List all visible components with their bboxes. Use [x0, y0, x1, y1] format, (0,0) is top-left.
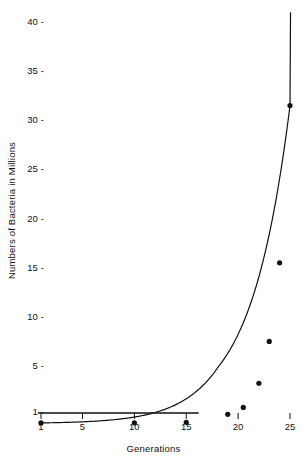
x-tick-label: 5 — [68, 422, 98, 432]
x-tick-label: 15 — [171, 422, 201, 432]
data-curve — [41, 12, 291, 423]
data-point-marker — [225, 412, 230, 417]
x-tick-label: 10 — [119, 422, 149, 432]
data-point-marker — [287, 103, 292, 108]
data-point-marker — [256, 381, 261, 386]
data-point-marker — [267, 339, 272, 344]
x-tick-label: 1 — [26, 422, 56, 432]
x-tick-label: 20 — [223, 422, 253, 432]
x-tick-label: 25 — [275, 422, 305, 432]
plot-area — [0, 0, 307, 467]
x-axis-label: Generations — [0, 443, 307, 454]
chart-figure: Numbers of Bacteria in Millions 1-5-10-1… — [0, 0, 307, 467]
data-point-marker — [277, 260, 282, 265]
data-point-marker — [241, 405, 246, 410]
